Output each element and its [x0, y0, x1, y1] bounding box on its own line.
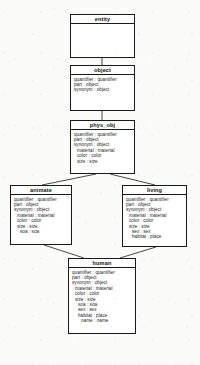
attribute-row: synonym : object: [71, 87, 134, 92]
edge-phys_obj-living: [110, 174, 155, 185]
class-box-animate[interactable]: animate quantifier : quantifier part : o…: [10, 185, 72, 245]
class-box-living[interactable]: living quantifier : quantifier part : ob…: [122, 185, 187, 247]
attribute-row: habitat : place: [123, 234, 186, 239]
class-title-living: living: [123, 186, 186, 195]
class-box-human[interactable]: human quantifier : quantifier part : obj…: [68, 258, 136, 334]
class-attributes-animate: quantifier : quantifier part : object sy…: [11, 195, 71, 236]
class-attributes-phys_obj: quantifier : quantifier part : object sy…: [71, 130, 134, 165]
attribute-row: name : name: [69, 318, 135, 323]
class-box-phys_obj[interactable]: phys_obj quantifier : quantifier part : …: [70, 120, 135, 174]
class-box-entity[interactable]: entity: [70, 14, 135, 58]
edge-living-human: [120, 247, 156, 258]
class-attributes-human: quantifier : quantifier part : object sy…: [69, 268, 135, 325]
class-attributes-object: quantifier : quantifier part : object sy…: [71, 75, 134, 94]
class-title-human: human: [69, 259, 135, 268]
attribute-row: soa : soa: [11, 229, 71, 234]
class-attributes-entity: [71, 24, 134, 69]
class-title-animate: animate: [11, 186, 71, 195]
class-diagram-canvas: entity object quantifier : quantifier pa…: [0, 0, 200, 365]
class-box-object[interactable]: object quantifier : quantifier part : ob…: [70, 65, 135, 111]
class-title-object: object: [71, 66, 134, 75]
attribute-row: size : size: [71, 159, 134, 164]
edge-phys_obj-animate: [42, 174, 96, 185]
class-title-entity: entity: [71, 15, 134, 24]
class-attributes-living: quantifier : quantifier part : object sy…: [123, 195, 186, 241]
edge-animate-human: [44, 245, 84, 258]
class-title-phys_obj: phys_obj: [71, 121, 134, 130]
